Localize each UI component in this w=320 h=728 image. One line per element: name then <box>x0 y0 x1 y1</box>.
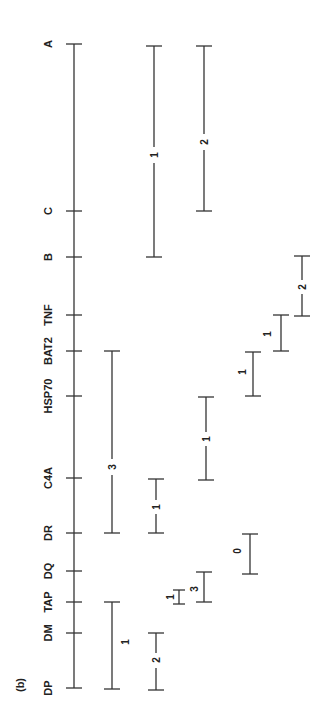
interval-tnf-b: 2 <box>294 256 310 316</box>
genetic-map-diagram: A C B TNF BAT2 HSP70 C4A DR DQ TAP DM DP… <box>0 0 320 728</box>
intervals: 1 2 3 1 <box>104 46 310 690</box>
interval-label: 1 <box>149 152 160 158</box>
interval-label: 2 <box>151 657 162 663</box>
interval-label: 3 <box>189 586 200 592</box>
interval-c4a-hsp70: 1 <box>198 397 214 480</box>
locus-label-c4a: C4A <box>42 467 54 489</box>
interval-tap-dp: 1 <box>104 602 131 689</box>
locus-label-dr: DR <box>42 525 54 541</box>
interval-label: 3 <box>107 464 118 470</box>
interval-label: 0 <box>232 548 243 554</box>
main-axis <box>66 44 82 688</box>
interval-label: 2 <box>199 139 210 145</box>
interval-a-b: 1 <box>146 46 162 257</box>
interval-hsp70-bat2: 1 <box>237 352 261 396</box>
interval-label: 1 <box>237 369 248 375</box>
interval-tap-small: 1 <box>165 590 185 604</box>
locus-label-hsp70: HSP70 <box>42 379 54 414</box>
locus-labels: A C B TNF BAT2 HSP70 C4A DR DQ TAP DM DP… <box>14 40 54 696</box>
locus-label-dp: DP <box>42 680 54 695</box>
locus-label-b: B <box>42 253 54 261</box>
interval-bat2-dr: 3 <box>104 351 120 533</box>
interval-label: 2 <box>297 284 308 290</box>
locus-label-dm: DM <box>42 624 54 641</box>
locus-label-tnf: TNF <box>42 304 54 326</box>
interval-a-c: 2 <box>196 46 212 211</box>
interval-label: 1 <box>201 436 212 442</box>
interval-dr-c4a: 1 <box>148 479 164 533</box>
interval-dm-dp: 2 <box>148 633 164 690</box>
locus-label-dq: DQ <box>42 562 54 579</box>
panel-label: (b) <box>14 678 26 692</box>
interval-dq-tap: 3 <box>189 572 212 602</box>
interval-label: 1 <box>262 331 273 337</box>
locus-label-tap: TAP <box>42 591 54 612</box>
interval-label: 1 <box>151 504 162 510</box>
interval-dr-dq: 0 <box>232 534 258 574</box>
locus-label-c: C <box>42 207 54 215</box>
interval-label: 1 <box>120 639 131 645</box>
interval-bat2-tnf: 1 <box>262 315 289 351</box>
locus-label-bat2: BAT2 <box>42 337 54 365</box>
interval-label: 1 <box>165 594 176 600</box>
locus-label-a: A <box>42 40 54 48</box>
